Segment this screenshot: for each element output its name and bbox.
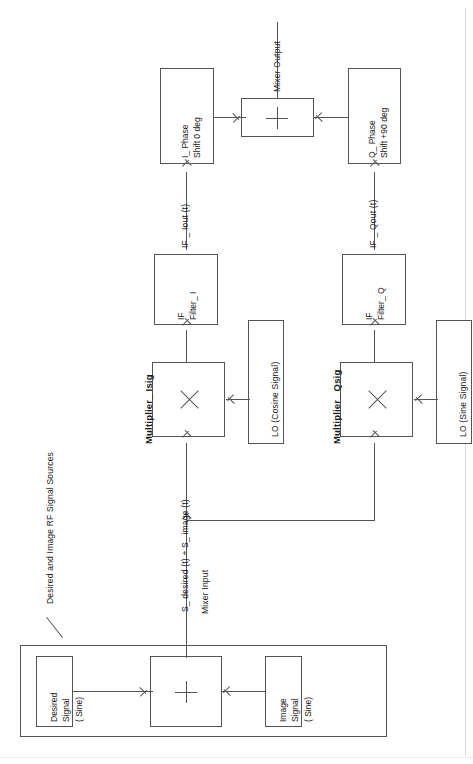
multiplier-isig-cross-icon — [176, 387, 201, 412]
arrowhead-summer-left-input — [233, 113, 242, 122]
rf-summer-plus-icon — [175, 681, 197, 703]
arrowhead-summer-right-input — [313, 113, 322, 122]
if-filter-i-line2: Filter_ I — [187, 292, 199, 320]
arrowhead-multiplier-isig-lo-input — [225, 395, 234, 404]
arrowhead-rf-summer-right-input — [221, 687, 230, 696]
block-image-signal-label: Image Signal ( Sine) — [277, 697, 314, 722]
label-lo-sine: LO (Sine Signal) — [458, 371, 469, 437]
if-filter-q-line2: Filter_ Q — [375, 287, 387, 320]
q-phase-line2: Shift +90 deg — [378, 108, 390, 158]
arrowhead-if-filter-q-input — [370, 325, 379, 334]
wire-rf-summer-output — [186, 640, 187, 658]
label-if-iout: IF _ Iout (t) — [180, 204, 191, 248]
diagram-canvas: I_ Phase Shift 0 deg Q_ Phase Shift +90 … — [0, 0, 473, 764]
label-mixer-input: Mixer Input — [200, 570, 211, 614]
desired-signal-line2: Signal — [60, 693, 72, 722]
arrowhead-i-phase-input — [182, 166, 191, 175]
label-rf-sum: S_ desired (t) + S_ image (t) — [180, 499, 191, 612]
annotation-leader-line — [46, 617, 63, 638]
label-rf-signal-sources: Desired and Image RF Signal Sources — [45, 452, 56, 604]
block-if-filter-i-label: IF Filter_ I — [175, 292, 200, 320]
i-phase-line1: I_ Phase — [179, 117, 191, 158]
wire-rf-to-multiplier-qsig — [374, 443, 375, 521]
label-if-qout: IF _ Qout (t) — [368, 200, 379, 248]
arrowhead-multiplier-isig-rf-input — [182, 437, 191, 446]
arrowhead-if-filter-i-input — [182, 325, 191, 334]
wire-rf-branch-to-q — [186, 520, 375, 521]
image-signal-line2: Signal — [289, 697, 301, 722]
desired-signal-line1: Desired — [48, 693, 60, 722]
block-desired-signal-label: Desired Signal ( Sine) — [48, 693, 85, 722]
label-lo-cosine: LO (Cosine Signal) — [270, 362, 281, 437]
arrowhead-multiplier-qsig-rf-input — [370, 437, 379, 446]
page-edge-bottom — [0, 757, 473, 758]
image-signal-line3: ( Sine) — [302, 697, 314, 722]
block-i-phase-shift-label: I_ Phase Shift 0 deg — [179, 117, 204, 158]
arrowhead-rf-summer-left-input — [140, 687, 149, 696]
arrowhead-q-phase-input — [370, 166, 379, 175]
arrowhead-multiplier-qsig-lo-input — [413, 395, 422, 404]
if-filter-i-line1: IF — [175, 292, 187, 320]
block-if-filter-q-label: IF Filter_ Q — [363, 287, 388, 320]
label-multiplier-qsig: Multiplier_ Qsig — [331, 370, 343, 444]
desired-signal-line3: ( Sine) — [73, 693, 85, 722]
multiplier-qsig-cross-icon — [364, 387, 389, 412]
image-signal-line1: Image — [277, 697, 289, 722]
output-summer-plus-icon — [266, 107, 288, 129]
block-q-phase-shift-label: Q_ Phase Shift +90 deg — [366, 108, 391, 158]
if-filter-q-line1: IF — [363, 287, 375, 320]
q-phase-line1: Q_ Phase — [366, 108, 378, 158]
label-mixer-output: Mixer Output — [272, 41, 283, 92]
i-phase-line2: Shift 0 deg — [191, 117, 203, 158]
label-multiplier-isig: Multiplier_ Isig — [143, 374, 155, 444]
wire-mult-i-to-filter-i — [186, 330, 187, 363]
wire-mult-q-to-filter-q — [374, 330, 375, 363]
